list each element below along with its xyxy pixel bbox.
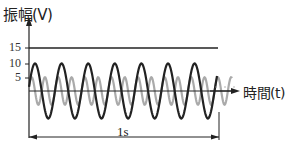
- x-axis-label: 時間(t): [243, 82, 285, 102]
- y-tick-5: 5: [3, 70, 21, 85]
- y-tick-10: 10: [3, 56, 21, 71]
- y-tick-15: 15: [3, 40, 21, 55]
- y-axis-label: 振幅(V): [3, 3, 52, 24]
- duration-label: 1s: [117, 124, 129, 140]
- x-axis-arrow-icon: [231, 88, 240, 94]
